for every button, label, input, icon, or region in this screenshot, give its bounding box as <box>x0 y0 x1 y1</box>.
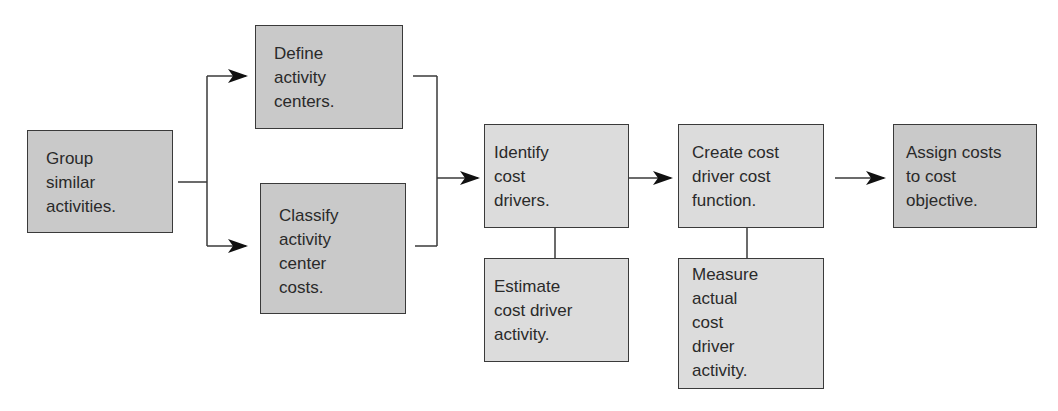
node-text: actual <box>692 287 809 311</box>
node-text: Measure <box>692 263 809 287</box>
node-define-activity-centers: Define activity centers. <box>255 25 403 129</box>
node-group-similar-activities: Group similar activities. <box>27 130 173 233</box>
node-text: centers. <box>274 90 388 114</box>
node-text: driver <box>692 335 809 359</box>
node-classify-activity-center-costs: Classify activity center costs. <box>260 183 406 314</box>
node-text: drivers. <box>494 189 614 213</box>
node-text: cost <box>494 165 614 189</box>
node-estimate-cost-driver-activity: Estimate cost driver activity. <box>484 258 629 362</box>
node-text: cost driver <box>494 299 614 323</box>
node-text: Create cost <box>692 141 809 165</box>
node-measure-actual-cost-driver-activity: Measure actual cost driver activity. <box>678 258 824 389</box>
node-text: objective. <box>906 189 1022 213</box>
node-text: activity. <box>692 359 809 383</box>
node-text: costs. <box>279 276 391 300</box>
node-text: activities. <box>46 195 158 219</box>
node-text: function. <box>692 189 809 213</box>
node-text: activity. <box>494 323 614 347</box>
node-identify-cost-drivers: Identify cost drivers. <box>484 124 629 228</box>
node-text: similar <box>46 171 158 195</box>
node-text: Assign costs <box>906 141 1022 165</box>
node-text: activity <box>279 228 391 252</box>
node-text: Classify <box>279 204 391 228</box>
node-text: driver cost <box>692 165 809 189</box>
node-assign-costs-to-cost-objective: Assign costs to cost objective. <box>893 124 1037 228</box>
node-create-cost-driver-cost-function: Create cost driver cost function. <box>678 124 824 228</box>
node-text: Estimate <box>494 275 614 299</box>
node-text: Group <box>46 147 158 171</box>
node-text: center <box>279 252 391 276</box>
node-text: cost <box>692 311 809 335</box>
node-text: Identify <box>494 141 614 165</box>
node-text: Define <box>274 42 388 66</box>
node-text: activity <box>274 66 388 90</box>
node-text: to cost <box>906 165 1022 189</box>
